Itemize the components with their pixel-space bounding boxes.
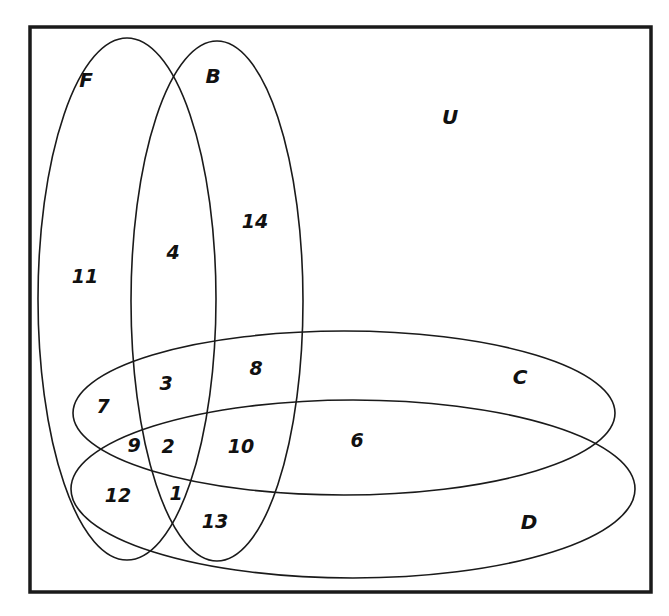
region-value: 2 — [161, 435, 174, 457]
universe-border — [30, 27, 651, 592]
universe-label: U — [442, 105, 458, 129]
region-value: 11 — [72, 265, 98, 287]
region-value: 8 — [249, 357, 262, 379]
set-c-ellipse — [73, 331, 615, 495]
region-value: 9 — [127, 434, 140, 456]
region-value: 7 — [96, 395, 110, 417]
venn-diagram: U F B C D 11 4 14 3 8 7 9 2 10 6 12 1 13 — [0, 0, 669, 616]
region-value: 14 — [242, 210, 268, 232]
set-b-ellipse — [131, 41, 303, 561]
set-label-f: F — [79, 68, 93, 92]
set-label-d: D — [521, 510, 538, 534]
region-value: 6 — [350, 429, 363, 451]
region-value: 4 — [165, 241, 179, 263]
region-value: 3 — [159, 372, 172, 394]
region-value: 10 — [228, 435, 254, 457]
set-d-ellipse — [71, 400, 635, 578]
set-f-ellipse — [38, 38, 216, 560]
region-value: 12 — [105, 484, 131, 506]
set-label-c: C — [513, 365, 528, 389]
region-value: 1 — [169, 482, 182, 504]
region-value: 13 — [202, 510, 228, 532]
set-label-b: B — [205, 64, 220, 88]
